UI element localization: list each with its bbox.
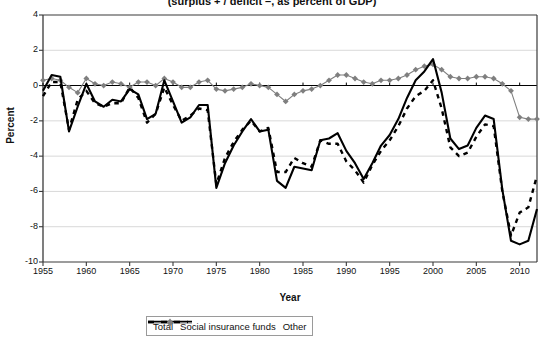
x-tick-label: 1970: [151, 266, 195, 276]
x-tick-label: 1990: [324, 266, 368, 276]
y-tick-label: -2: [6, 115, 38, 125]
x-tick-label: 1975: [194, 266, 238, 276]
plot-area: [0, 0, 544, 340]
x-tick-label: 1965: [108, 266, 152, 276]
y-tick-label: 0: [6, 80, 38, 90]
y-tick-label: -6: [6, 185, 38, 195]
x-tick-label: 1995: [368, 266, 412, 276]
legend-label-social-insurance-funds: Social insurance funds: [180, 321, 276, 332]
y-tick-label: -4: [6, 150, 38, 160]
legend-item-other: Other: [283, 321, 307, 332]
chart-container: (surplus + / deficit –, as percent of GD…: [0, 0, 544, 340]
x-tick-label: 2010: [498, 266, 542, 276]
y-tick-label: 4: [6, 9, 38, 19]
legend-item-social-insurance-funds: Social insurance funds: [180, 321, 276, 332]
x-tick-label: 2000: [411, 266, 455, 276]
legend-swatch-other-icon: [147, 317, 189, 327]
x-tick-label: 2005: [454, 266, 498, 276]
y-tick-label: -10: [6, 256, 38, 266]
x-tick-label: 1985: [281, 266, 325, 276]
chart-legend: Total Social insurance funds Other: [146, 316, 313, 336]
x-tick-label: 1960: [64, 266, 108, 276]
y-tick-label: -8: [6, 221, 38, 231]
legend-label-other: Other: [283, 321, 307, 332]
x-tick-label: 1980: [238, 266, 282, 276]
y-tick-label: 2: [6, 44, 38, 54]
x-tick-label: 1955: [21, 266, 65, 276]
